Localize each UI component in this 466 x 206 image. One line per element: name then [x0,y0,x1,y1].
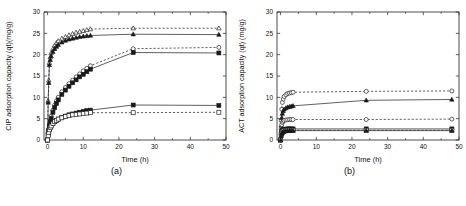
y-tick-label: 25 [33,30,41,37]
y-tick-label: 5 [269,115,273,122]
data-point [88,111,92,115]
y-tick-label: 0 [269,136,273,143]
series-open-circle-dashed [46,45,221,142]
data-point [56,98,60,102]
data-point [450,89,454,93]
x-tick-label: 0 [46,143,50,150]
y-axis-label: ACT adsorption capacity (qt) (mg/g) [237,19,246,133]
y-tick-label: 30 [33,8,41,15]
y-tick-label: 5 [36,115,40,122]
series-line [48,53,219,140]
data-point [217,51,221,55]
y-tick-label: 20 [266,51,274,58]
chart-panel-a: 01020304050051015202530Time (h)CIP adsor… [0,0,233,172]
data-point [88,67,92,71]
x-tick-label: 20 [348,143,356,150]
y-tick-label: 0 [36,136,40,143]
data-point [217,45,221,49]
y-axis-label: CIP adsorption capacity (qt)(mg/g) [4,21,13,130]
x-tick-label: 10 [80,143,88,150]
data-point [53,106,57,110]
data-point [131,51,135,55]
x-tick-label: 30 [384,143,392,150]
data-point [131,111,135,115]
y-tick-label: 15 [266,72,274,79]
data-point [217,26,221,30]
figure-container: 01020304050051015202530Time (h)CIP adsor… [0,0,466,206]
data-point [364,89,368,93]
data-point [217,103,221,107]
series-line [48,105,219,140]
series-open-circle-dashed-top [279,89,454,142]
data-point [291,90,295,94]
chart-panel-b: 01020304050051015202530Time (h)ACT adsor… [233,0,466,172]
x-tick-label: 20 [115,143,123,150]
data-point [217,110,221,114]
panel-a-caption: (a) [0,166,233,176]
y-tick-label: 30 [266,8,274,15]
panel-b-caption: (b) [233,166,466,176]
data-point [63,88,67,92]
data-point [51,110,55,114]
data-point [450,117,454,121]
panel-b: 01020304050051015202530Time (h)ACT adsor… [233,0,466,206]
series-line [48,47,219,140]
data-point [60,92,64,96]
data-point [291,118,295,122]
y-tick-label: 20 [33,51,41,58]
x-tick-label: 50 [222,143,230,150]
data-point [364,118,368,122]
x-tick-label: 40 [420,143,428,150]
y-tick-label: 15 [33,72,41,79]
y-tick-label: 25 [266,30,274,37]
x-tick-label: 30 [151,143,159,150]
data-point [131,103,135,107]
x-tick-label: 40 [187,143,195,150]
y-tick-label: 10 [33,94,41,101]
series-open-square-low-dashed [46,110,221,142]
x-axis-label: Time (h) [354,155,382,164]
y-tick-label: 10 [266,94,274,101]
data-point [131,47,135,51]
x-axis-label: Time (h) [121,155,149,164]
plot-frame [44,12,226,140]
x-tick-label: 10 [313,143,321,150]
x-tick-label: 0 [279,143,283,150]
x-tick-label: 50 [455,143,463,150]
series-filled-square-low-solid [46,103,221,142]
data-point [46,138,50,142]
panel-a: 01020304050051015202530Time (h)CIP adsor… [0,0,233,206]
series-filled-square-mid-solid [46,51,221,142]
